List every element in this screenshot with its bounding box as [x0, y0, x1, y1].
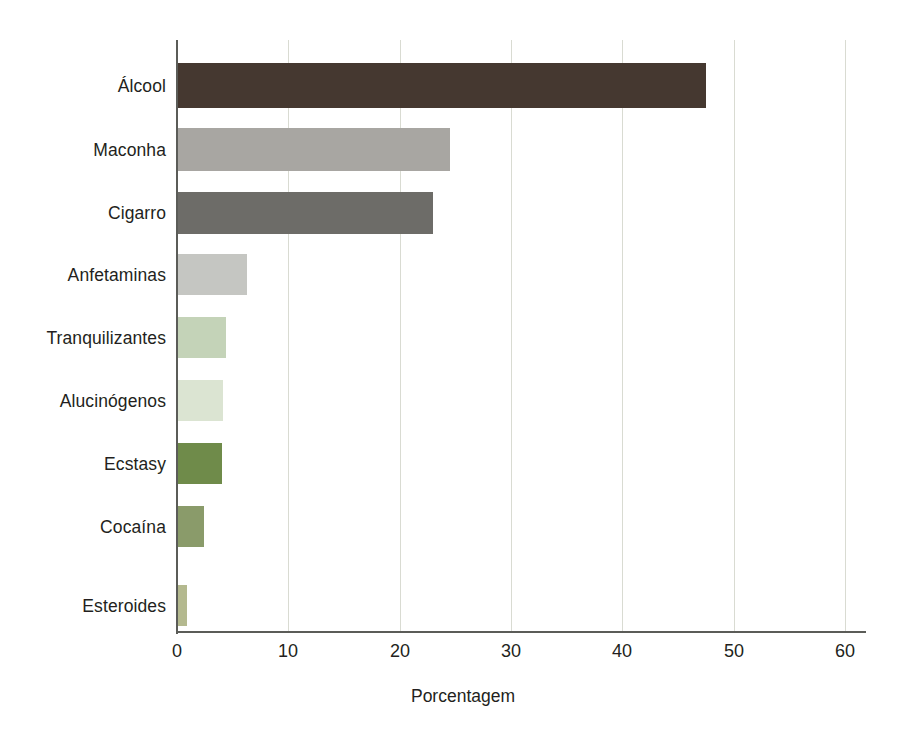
category-label-tranquilizantes: Tranquilizantes	[0, 328, 166, 349]
bar-chart: Álcool Maconha Cigarro Anfetaminas Tranq…	[0, 0, 912, 748]
x-tick-10: 10	[278, 641, 298, 662]
plot-area	[177, 40, 845, 632]
category-label-maconha: Maconha	[0, 140, 166, 161]
x-tick-40: 40	[612, 641, 632, 662]
x-axis-title: Porcentagem	[0, 686, 912, 707]
bar-alcool	[177, 63, 706, 108]
gridline-40	[622, 40, 623, 632]
category-label-ecstasy: Ecstasy	[0, 454, 166, 475]
bar-tranquilizantes	[177, 317, 226, 358]
bar-cocaina	[177, 506, 204, 547]
bar-maconha	[177, 128, 450, 171]
y-axis-line	[176, 40, 178, 634]
category-label-cocaina: Cocaína	[0, 517, 166, 538]
bar-esteroides	[177, 585, 187, 626]
x-tick-50: 50	[724, 641, 744, 662]
x-axis-title-text: Porcentagem	[411, 686, 515, 707]
gridline-60	[845, 40, 846, 632]
bar-anfetaminas	[177, 254, 247, 295]
bar-cigarro	[177, 192, 433, 234]
x-tick-0: 0	[172, 641, 182, 662]
x-tick-60: 60	[835, 641, 855, 662]
category-label-anfetaminas: Anfetaminas	[0, 265, 166, 286]
x-tick-30: 30	[501, 641, 521, 662]
category-axis-labels: Álcool Maconha Cigarro Anfetaminas Tranq…	[0, 0, 166, 748]
gridline-50	[734, 40, 735, 632]
bar-alucinogenos	[177, 380, 223, 421]
x-tick-20: 20	[390, 641, 410, 662]
category-label-cigarro: Cigarro	[0, 203, 166, 224]
bar-ecstasy	[177, 443, 222, 484]
x-axis-line	[176, 631, 866, 633]
gridline-30	[511, 40, 512, 632]
category-label-alcool: Álcool	[0, 76, 166, 97]
category-label-esteroides: Esteroides	[0, 596, 166, 617]
x-axis-tick-labels: 0 10 20 30 40 50 60	[0, 641, 912, 671]
category-label-alucinogenos: Alucinógenos	[0, 391, 166, 412]
